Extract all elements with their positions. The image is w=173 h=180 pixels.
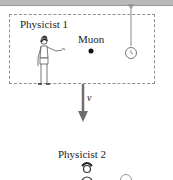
ground-observer-label: Physicist 2 <box>58 148 106 160</box>
muon-label: Muon <box>78 33 104 45</box>
frame-label: Physicist 1 <box>20 18 68 30</box>
velocity-arrow-icon <box>78 84 88 124</box>
physicist-2-figure <box>80 162 94 180</box>
ceiling-bar <box>0 0 173 6</box>
physicist-1-figure <box>32 34 68 89</box>
muon-particle-icon <box>88 48 94 54</box>
ground-clock-icon <box>119 172 133 180</box>
velocity-label: v <box>87 92 91 103</box>
